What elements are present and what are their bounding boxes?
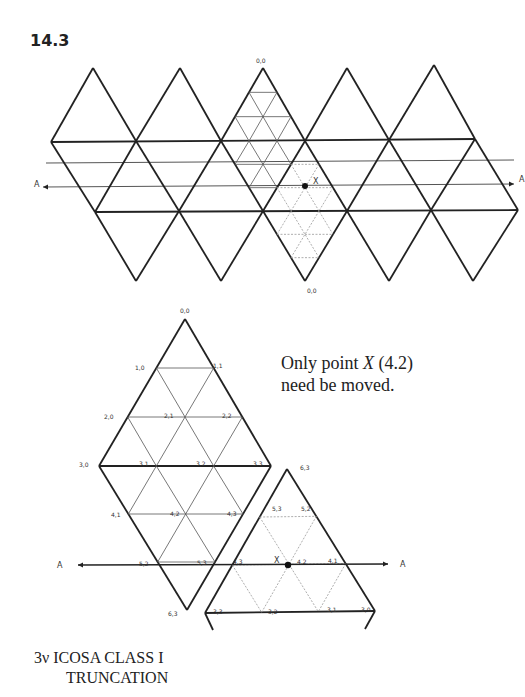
vertex-label: 1,1 bbox=[213, 362, 223, 369]
subdivision-line bbox=[128, 417, 157, 466]
vertex-label: 4,1 bbox=[111, 511, 121, 518]
middle-band-edge bbox=[431, 139, 475, 210]
middle-band-edge bbox=[305, 141, 347, 211]
subdivision-line bbox=[277, 141, 291, 164]
dotted-subdivision-line bbox=[277, 211, 291, 234]
vertex-label: 4,3 bbox=[227, 510, 237, 517]
apex-label: 0,0 bbox=[256, 57, 266, 64]
middle-band-edge bbox=[51, 142, 95, 212]
icosa-truncation-diagram: AA0,00,0X AA0,01,01,12,02,12,23,03,13,23… bbox=[0, 0, 525, 697]
vertex-label: 3,0 bbox=[361, 606, 371, 613]
top-triangle-edge bbox=[434, 65, 475, 139]
vertex-label: 0,0 bbox=[180, 307, 190, 314]
diamond-edge bbox=[99, 466, 187, 610]
vertex-label: 3,3 bbox=[213, 608, 223, 615]
bottom-triangle-edge bbox=[179, 211, 221, 281]
apex-label: 0,0 bbox=[307, 287, 317, 294]
subdivision-line bbox=[235, 141, 249, 164]
vertex-label: 6,3 bbox=[168, 610, 178, 617]
top-triangle-edge bbox=[389, 65, 434, 140]
vertex-label: 6,3 bbox=[300, 464, 310, 471]
bottom-triangle-edge bbox=[95, 212, 136, 281]
middle-band-edge bbox=[136, 141, 179, 211]
arrow-right-icon bbox=[383, 562, 388, 567]
top-triangle-edge bbox=[180, 68, 221, 141]
subdivision-line bbox=[214, 466, 243, 514]
point-x-label: X bbox=[313, 177, 319, 186]
vertex-label: 4,3 bbox=[233, 558, 243, 565]
subdivision-line bbox=[235, 117, 249, 141]
triangle-base bbox=[205, 611, 375, 613]
middle-band-edge bbox=[179, 141, 221, 211]
top-triangle-edge bbox=[263, 68, 305, 141]
middle-band-edge bbox=[347, 140, 389, 211]
subdivision-line bbox=[128, 466, 156, 514]
dotted-subdivision-line bbox=[232, 565, 261, 612]
arrow-left-icon bbox=[43, 185, 48, 190]
top-triangle-edge bbox=[221, 68, 263, 141]
middle-band-edge bbox=[221, 141, 263, 211]
note-prefix: Only point bbox=[281, 353, 363, 373]
caption-line2: TRUNCATION bbox=[34, 668, 224, 688]
caption-line1: 3ν ICOSA CLASS I bbox=[34, 648, 224, 668]
bottom-triangle-edge bbox=[473, 210, 518, 281]
arrow-left-icon bbox=[78, 563, 83, 568]
bottom-triangle-edge bbox=[347, 211, 389, 281]
subdivision-line bbox=[214, 417, 243, 466]
note-point: X bbox=[363, 353, 374, 373]
point-x-marker bbox=[285, 562, 291, 568]
vertex-label: 4,2 bbox=[170, 510, 180, 517]
vertex-label: 5,3 bbox=[197, 559, 207, 566]
vertex-label: 3,3 bbox=[253, 460, 263, 467]
top-triangle-edge bbox=[93, 68, 136, 141]
top-triangle-edge bbox=[136, 68, 180, 141]
top-icosahedron-net: AA0,00,0X bbox=[34, 57, 525, 294]
note-line2: need be moved. bbox=[281, 375, 394, 395]
axis-label-a: A bbox=[400, 560, 406, 569]
vertex-label: 1,0 bbox=[135, 364, 145, 371]
base-tab-edge bbox=[205, 613, 213, 630]
axis-label-a: A bbox=[57, 561, 63, 570]
vertex-label: 3,1 bbox=[139, 460, 149, 467]
dotted-subdivision-line bbox=[319, 211, 333, 234]
bottom-triangle-edge bbox=[389, 210, 431, 281]
top-triangle-edge bbox=[305, 68, 347, 141]
axis-label-a: A bbox=[34, 180, 40, 189]
middle-band-edge bbox=[389, 140, 431, 210]
vertex-label: 5,2 bbox=[139, 560, 149, 567]
figure-caption: 3ν ICOSA CLASS I TRUNCATION bbox=[34, 648, 224, 688]
arrow-right-icon bbox=[509, 182, 514, 187]
vertex-label: 3,2 bbox=[268, 608, 278, 615]
dotted-subdivision-line bbox=[277, 188, 291, 211]
vertex-label: 3,1 bbox=[327, 606, 337, 613]
horizontal-guide-line bbox=[46, 160, 514, 163]
note-text: Only point X (4.2) need be moved. bbox=[281, 352, 481, 396]
bottom-triangle-edge bbox=[431, 210, 473, 281]
vertex-label: 5,2 bbox=[301, 505, 311, 512]
point-x-marker bbox=[302, 183, 308, 189]
diamond-edge bbox=[99, 319, 185, 466]
top-triangle-edge bbox=[347, 68, 389, 140]
dotted-subdivision-line bbox=[319, 188, 333, 211]
lower-band-line bbox=[95, 210, 518, 212]
vertex-label: 3,2 bbox=[196, 460, 206, 467]
diamond-edge bbox=[187, 466, 271, 610]
vertex-label: 2,0 bbox=[104, 413, 114, 420]
vertex-label: 2,1 bbox=[164, 412, 174, 419]
bottom-triangle-edge bbox=[136, 211, 179, 281]
dotted-subdivision-line bbox=[260, 516, 317, 517]
vertex-label: 4,1 bbox=[328, 557, 338, 564]
point-x-label: X bbox=[274, 556, 280, 565]
axis-label-a: A bbox=[519, 175, 525, 184]
vertex-label: 3,0 bbox=[79, 461, 89, 468]
vertex-label: 5,3 bbox=[272, 505, 282, 512]
note-suffix: (4.2) bbox=[374, 353, 413, 373]
diamond-edge bbox=[185, 319, 271, 466]
middle-band-edge bbox=[263, 141, 305, 211]
subdivision-line bbox=[277, 117, 291, 141]
upper-band-line bbox=[51, 139, 475, 142]
middle-band-edge bbox=[475, 139, 518, 210]
bottom-triangle-edge bbox=[305, 211, 347, 281]
bottom-triangle-edge bbox=[221, 211, 263, 281]
vertex-label: 4,2 bbox=[297, 558, 307, 565]
